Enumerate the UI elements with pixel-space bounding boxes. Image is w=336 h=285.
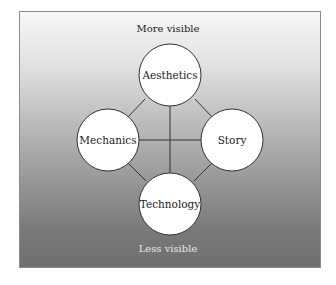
node-label-technology: Technology <box>135 198 205 210</box>
node-label-mechanics: Mechanics <box>73 134 143 146</box>
top-label: More visible <box>0 23 336 34</box>
node-label-aesthetics: Aesthetics <box>135 69 205 81</box>
node-label-story: Story <box>197 134 267 146</box>
bottom-label: Less visible <box>0 243 336 254</box>
